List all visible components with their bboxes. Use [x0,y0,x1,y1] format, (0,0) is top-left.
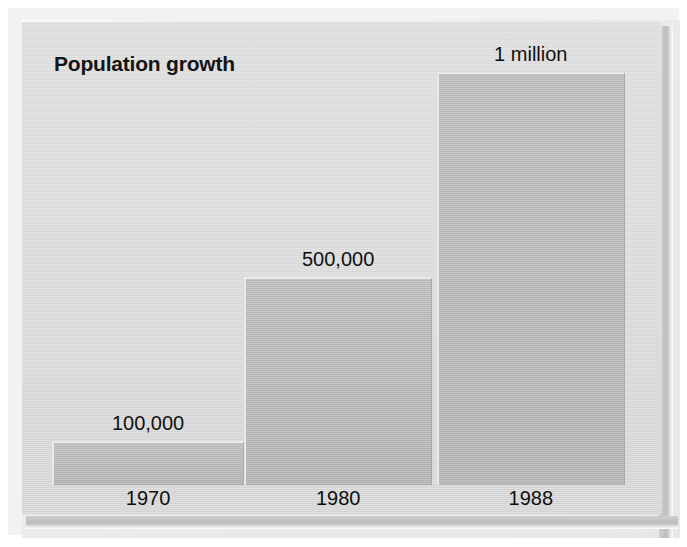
frame-bevel-shadow-bottom [26,516,678,529]
x-axis-labels: 197019801988 [22,485,662,514]
bar-1980 [244,277,432,485]
chart-screenshot: Population growth 100,000500,0001 millio… [0,0,687,547]
plot-area: 100,000500,0001 million [22,22,662,485]
bar-value-label-1988: 1 million [403,43,659,66]
bar-value-label-1970: 100,000 [22,412,276,435]
bar-1988 [437,72,625,485]
x-axis-label-1980: 1980 [242,487,434,510]
bar-1970 [52,441,244,485]
bar-chart: Population growth 100,000500,0001 millio… [22,22,662,514]
x-axis-label-1988: 1988 [435,487,627,510]
x-axis-label-1970: 1970 [52,487,244,510]
bar-value-label-1980: 500,000 [210,248,466,271]
